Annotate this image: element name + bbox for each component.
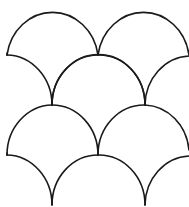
scale-arc-r2-a	[52, 54, 145, 105]
scale-arc-r4-left	[7, 155, 52, 205]
scale-arc-r3-a2	[52, 105, 98, 155]
scale-arc-r3-b2	[145, 105, 189, 150]
scale-arc-r2-a-top2	[98, 55, 145, 105]
scale-arc-r2-right	[145, 56, 189, 105]
scale-arc-r1-b	[98, 12, 189, 55]
scale-arc-r3-a1	[7, 105, 52, 155]
scale-arc-r2-left	[7, 55, 52, 105]
scale-arc-r1-a	[7, 12, 98, 55]
fish-scale-pattern	[0, 0, 189, 207]
scale-arc-r3-b1	[98, 105, 145, 155]
scale-arc-r2-a-top	[52, 55, 98, 105]
scale-arc-r4-a2	[98, 155, 145, 205]
scale-arc-r4-right	[145, 156, 189, 205]
scale-arc-r4-a1	[52, 155, 98, 205]
scale-pattern-graphic	[0, 0, 189, 207]
